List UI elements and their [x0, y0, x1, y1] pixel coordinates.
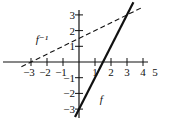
function-line [75, 2, 133, 117]
f-label: f [100, 93, 105, 105]
y-tick-label: 3 [70, 9, 76, 21]
y-tick-label: −2 [63, 87, 75, 99]
y-tick-label: −3 [63, 103, 75, 115]
function-inverse-chart: −3−2−112345−3−2−1123 ff⁻¹ [0, 0, 169, 127]
series [21, 2, 143, 117]
x-tick-label: 3 [124, 66, 130, 78]
x-tick-label: 5 [152, 66, 158, 78]
x-tick-label: 2 [108, 66, 114, 78]
y-tick-label: 2 [70, 25, 76, 37]
x-tick-label: 4 [140, 66, 146, 78]
x-tick-label: −3 [23, 66, 35, 78]
x-tick-label: −2 [39, 66, 51, 78]
f-inverse-label: f⁻¹ [36, 33, 48, 45]
y-tick-label: −1 [63, 72, 75, 84]
axes [3, 10, 148, 118]
